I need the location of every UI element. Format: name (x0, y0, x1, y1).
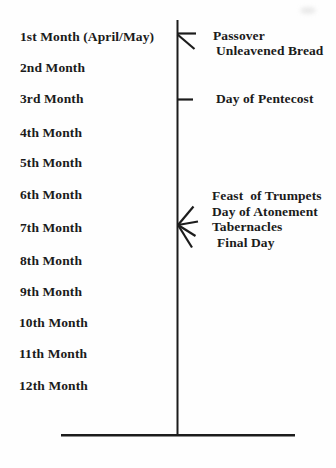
month-label-12: 12th Month (19, 378, 88, 394)
month-label-2: 2nd Month (20, 60, 85, 76)
event-label-unleavened-bread: Unleavened Bread (216, 43, 323, 59)
event-label-atonement: Day of Atonement (212, 204, 318, 220)
event-label-final-day: Final Day (217, 235, 275, 251)
event-label-passover: Passover (213, 28, 265, 44)
month-label-11: 11th Month (19, 346, 87, 362)
month-label-3: 3rd Month (20, 91, 84, 107)
month-label-10: 10th Month (19, 315, 88, 331)
month-label-4: 4th Month (20, 125, 82, 141)
month-label-7: 7th Month (20, 220, 82, 236)
event-label-tabernacles: Tabernacles (212, 219, 282, 235)
scan-artifact (300, 7, 316, 14)
event-label-pentecost: Day of Pentecost (216, 91, 314, 107)
month-label-6: 6th Month (20, 187, 82, 203)
fall-feasts-fan (178, 207, 198, 248)
month-label-1: 1st Month (April/May) (20, 29, 154, 45)
feast-calendar-diagram: 1st Month (April/May) 2nd Month 3rd Mont… (0, 0, 336, 468)
month-label-5: 5th Month (20, 155, 82, 171)
month-label-8: 8th Month (20, 253, 82, 269)
event-label-trumpets: Feast of Trumpets (212, 188, 322, 204)
spring-feasts-arrow (178, 34, 197, 50)
month-label-9: 9th Month (20, 284, 82, 300)
